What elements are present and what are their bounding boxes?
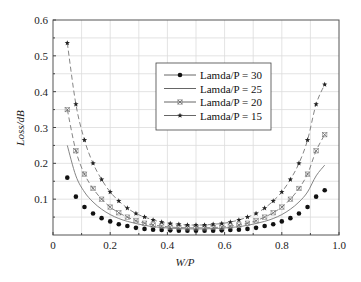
marker-dot xyxy=(82,205,87,210)
legend-label: Lamda/P = 20 xyxy=(200,96,263,108)
loss-chart: 00.20.40.60.81.00.10.20.30.40.50.6 Lamda… xyxy=(0,0,361,282)
marker-dot xyxy=(245,227,250,232)
marker-dot xyxy=(65,175,70,180)
y-tick-label: 0.4 xyxy=(34,86,48,98)
marker-dot xyxy=(142,227,147,232)
marker-dot xyxy=(74,194,79,199)
marker-x xyxy=(297,186,301,190)
marker-dot xyxy=(288,216,293,221)
legend-label: Lamda/P = 15 xyxy=(200,110,263,122)
y-tick-label: 0.3 xyxy=(34,122,48,134)
marker-star xyxy=(245,214,250,219)
marker-dot xyxy=(280,219,285,224)
marker-star xyxy=(73,101,78,106)
marker-star xyxy=(322,82,327,87)
marker-dot xyxy=(314,194,319,199)
marker-dot xyxy=(99,216,104,221)
marker-dot xyxy=(134,226,139,231)
marker-star xyxy=(142,214,147,219)
marker-x xyxy=(134,218,138,222)
legend-label: Lamda/P = 30 xyxy=(200,69,263,81)
x-tick-label: 0.2 xyxy=(103,239,117,251)
x-axis-title: W/P xyxy=(176,256,195,268)
marker-x xyxy=(323,132,327,136)
y-tick-label: 0.6 xyxy=(34,14,48,26)
x-tick-label: 0.8 xyxy=(275,239,289,251)
legend-label: Lamda/P = 25 xyxy=(200,83,263,95)
x-tick-label: 0.6 xyxy=(218,239,232,251)
marker-dot xyxy=(254,226,259,231)
marker-dot xyxy=(305,205,310,210)
marker-dot xyxy=(237,227,242,232)
marker-dot xyxy=(125,224,130,229)
marker-x xyxy=(314,149,318,153)
y-tick-label: 0.2 xyxy=(34,157,48,169)
marker-dot xyxy=(178,73,183,78)
marker-x xyxy=(254,218,258,222)
x-tick-label: 0 xyxy=(50,239,56,251)
y-tick-label: 0.1 xyxy=(34,193,48,205)
marker-dot xyxy=(116,222,121,227)
marker-star xyxy=(125,205,130,210)
marker-dot xyxy=(297,211,302,216)
marker-x xyxy=(305,172,309,176)
marker-star xyxy=(253,211,258,216)
marker-dot xyxy=(108,219,113,224)
marker-dot xyxy=(91,211,96,216)
marker-x xyxy=(91,186,95,190)
x-tick-label: 0.4 xyxy=(161,239,175,251)
y-tick-label: 0.5 xyxy=(34,50,48,62)
marker-star xyxy=(236,217,241,222)
marker-dot xyxy=(322,188,327,193)
y-axis-title: Loss/dB xyxy=(14,110,26,147)
marker-x xyxy=(117,211,121,215)
marker-dot xyxy=(271,222,276,227)
marker-dot xyxy=(262,224,267,229)
marker-star xyxy=(150,217,155,222)
marker-star xyxy=(133,211,138,216)
marker-star xyxy=(296,161,301,166)
marker-x xyxy=(271,211,275,215)
x-tick-label: 1.0 xyxy=(332,239,346,251)
marker-x xyxy=(82,172,86,176)
marker-star xyxy=(90,161,95,166)
marker-dot xyxy=(151,227,156,232)
legend: Lamda/P = 30Lamda/P = 25Lamda/P = 20Lamd… xyxy=(156,63,271,130)
